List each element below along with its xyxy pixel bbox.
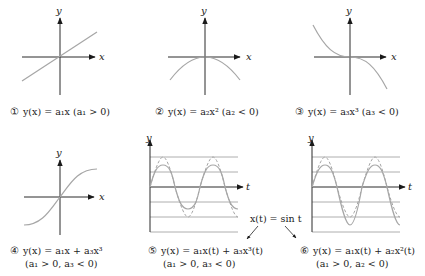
panel-3-caption: ③y(x) = a₃x³ (a₃ < 0): [295, 106, 399, 117]
y-axis-label: y: [345, 5, 352, 16]
panel-5-compressed-sine: y t ⑤y(x) = a₁x(t) + a₃x³(t) (a₁ > 0, a₃…: [145, 132, 263, 269]
nonlinearity-diagram: y x ①y(x) = a₁x (a₁ > 0) y x ②y(x) = a₂x…: [0, 0, 425, 276]
panel-2-quadratic: y x ②y(x) = a₂x² (a₂ < 0): [155, 5, 259, 117]
arrow-to-panel-5: [247, 226, 258, 239]
panel-4-caption-condition: (a₁ > 0, a₃ < 0): [25, 258, 97, 269]
y-axis-label: y: [55, 147, 62, 158]
panel-1-linear: y x ①y(x) = a₁x (a₁ > 0): [10, 5, 110, 117]
panel-6-caption: ⑥y(x) = a₁x(t) + a₂x²(t): [300, 245, 415, 256]
input-annotation: x(t) = sin t: [247, 213, 302, 239]
x-axis-label: x: [99, 51, 105, 62]
panel-3-cubic: y x ③y(x) = a₃x³ (a₃ < 0): [295, 5, 399, 117]
panel-5-caption: ⑤y(x) = a₁x(t) + a₃x³(t): [148, 245, 263, 256]
panel-2-caption: ②y(x) = a₂x² (a₂ < 0): [155, 106, 259, 117]
x-axis-label: x: [246, 51, 252, 62]
t-axis-label: t: [246, 181, 251, 192]
panel-4-saturation: y x ④y(x) = a₁x + a₃x³ (a₁ > 0, a₃ < 0): [10, 147, 105, 269]
arrow-to-panel-6: [285, 226, 296, 238]
panel-4-caption: ④y(x) = a₁x + a₃x³: [10, 245, 103, 256]
x-axis-label: x: [391, 51, 397, 62]
t-axis-label: t: [408, 181, 413, 192]
output-curve-solid: [312, 165, 400, 225]
y-axis-label: y: [145, 132, 152, 143]
x-axis-label: x: [99, 191, 105, 202]
input-signal-label: x(t) = sin t: [250, 213, 302, 224]
y-axis-label: y: [55, 5, 62, 16]
y-axis-label: y: [200, 5, 207, 16]
y-axis-label: y: [307, 132, 314, 143]
panel-1-caption: ①y(x) = a₁x (a₁ > 0): [10, 106, 110, 117]
panel-6-asymmetric-sine: y t ⑥y(x) = a₁x(t) + a₂x²(t) (a₁ > 0, a₂…: [300, 132, 415, 269]
panel-5-caption-condition: (a₁ > 0, a₃ < 0): [163, 258, 235, 269]
panel-6-caption-condition: (a₁ > 0, a₂ < 0): [316, 258, 388, 269]
